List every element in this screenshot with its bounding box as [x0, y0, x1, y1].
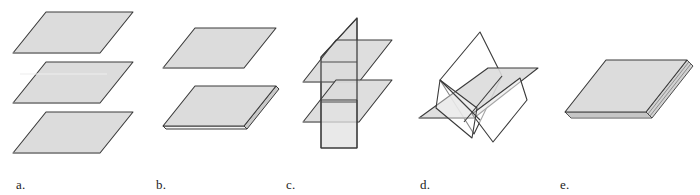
panel-e-diagram	[548, 0, 700, 165]
slab-front-face	[565, 112, 652, 118]
plane-a-middle	[13, 62, 133, 103]
planes-figure: a. b.	[0, 0, 700, 195]
plane-a-top	[13, 12, 133, 53]
panel-b-label: b.	[156, 178, 166, 191]
vertical-plane-lower	[321, 100, 357, 148]
plane-face	[13, 12, 133, 53]
panel-a-label: a.	[16, 178, 25, 191]
panel-d: d.	[414, 0, 548, 195]
slab-top-face	[163, 86, 276, 126]
panel-d-diagram	[414, 0, 548, 165]
plane-a-bottom	[13, 112, 133, 153]
panel-e-label: e.	[560, 178, 569, 191]
plane-c-upper-horizontal	[303, 40, 392, 82]
plane-b-upper	[163, 28, 276, 68]
panel-c-label: c.	[286, 178, 295, 191]
plane-c-vertical-front	[321, 100, 357, 148]
plane-face	[163, 28, 276, 68]
panel-b: b.	[148, 0, 284, 195]
panel-a-diagram	[0, 0, 148, 165]
plane-b-lower-slab	[163, 86, 279, 129]
panel-d-label: d.	[420, 178, 430, 191]
panel-e: e.	[548, 0, 700, 195]
panel-c: c.	[284, 0, 414, 195]
plane-e-coincident-slab	[565, 60, 693, 118]
panel-c-diagram	[284, 0, 414, 165]
panel-a: a.	[0, 0, 148, 195]
plane-face	[303, 40, 392, 82]
plane-face	[13, 62, 133, 103]
plane-face	[13, 112, 133, 153]
panel-b-diagram	[148, 0, 284, 165]
